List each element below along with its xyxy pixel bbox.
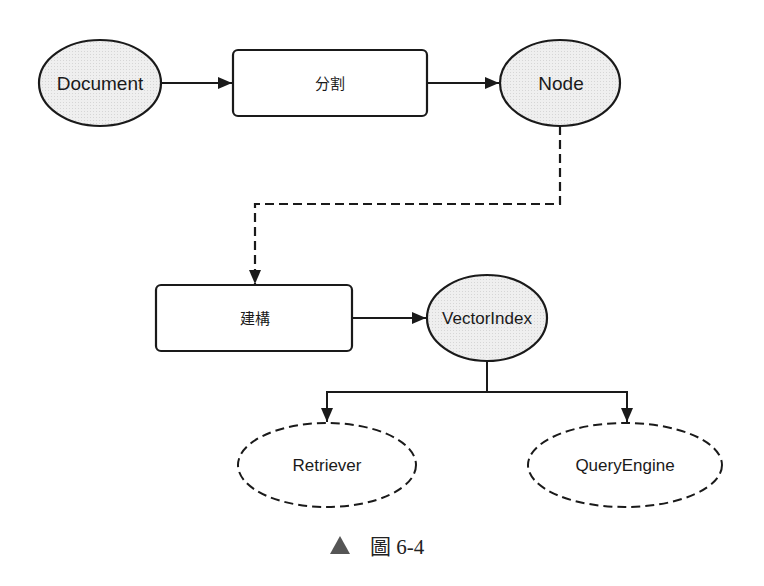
node-vectorindex[interactable]: VectorIndex	[427, 275, 547, 361]
node-split[interactable]: 分割	[233, 50, 427, 116]
caption-text: 圖 6-4	[370, 535, 425, 559]
node-retriever-label: Retriever	[293, 456, 362, 475]
node-document[interactable]: Document	[39, 40, 161, 126]
diagram-canvas: Document 分割 Node 建構 VectorIndex Retrieve…	[0, 0, 764, 586]
node-node[interactable]: Node	[500, 40, 620, 126]
edge-node-to-build	[255, 126, 560, 284]
node-vectorindex-label: VectorIndex	[442, 309, 532, 328]
edge-vectorindex-to-retriever	[327, 392, 487, 422]
node-split-label: 分割	[315, 75, 345, 92]
figure-caption: 圖 6-4	[330, 535, 425, 559]
caption-triangle-icon	[330, 536, 350, 554]
node-queryengine[interactable]: QueryEngine	[528, 423, 722, 507]
node-retriever[interactable]: Retriever	[238, 423, 416, 507]
edge-vectorindex-to-queryengine	[487, 392, 627, 422]
node-build[interactable]: 建構	[156, 285, 352, 351]
node-document-label: Document	[57, 73, 144, 94]
node-build-label: 建構	[240, 310, 270, 327]
node-queryengine-label: QueryEngine	[575, 456, 674, 475]
node-node-label: Node	[538, 73, 583, 94]
